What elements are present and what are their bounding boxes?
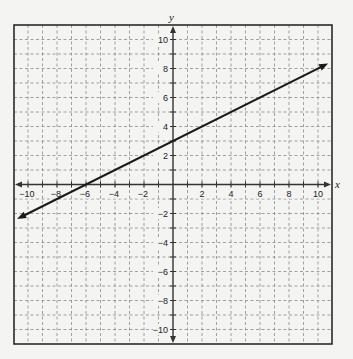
y-axis-arrow-up-icon — [170, 26, 176, 33]
y-tick-label: 2 — [163, 151, 168, 161]
x-tick-label: 10 — [313, 189, 323, 199]
y-tick-label: −2 — [158, 209, 168, 219]
line-arrow-left-icon — [17, 212, 27, 219]
y-axis-arrow-down-icon — [170, 336, 176, 343]
y-tick-label: 4 — [163, 122, 168, 132]
y-tick-label: −10 — [153, 325, 168, 335]
x-tick-label: 8 — [286, 189, 291, 199]
x-tick-label: 4 — [228, 189, 233, 199]
x-tick-label: −6 — [80, 189, 90, 199]
y-tick-label: −8 — [158, 296, 168, 306]
y-tick-label: 10 — [158, 35, 168, 45]
x-axis-arrow-left-icon — [15, 182, 22, 188]
line-arrow-right-icon — [319, 63, 329, 70]
x-tick-label: −4 — [109, 189, 119, 199]
y-tick-label: −4 — [158, 238, 168, 248]
y-tick-label: 6 — [163, 93, 168, 103]
x-axis-arrow-right-icon — [324, 182, 331, 188]
y-tick-label: −6 — [158, 267, 168, 277]
y-tick-label: 8 — [163, 64, 168, 74]
x-tick-label: −10 — [19, 189, 34, 199]
x-tick-label: 2 — [199, 189, 204, 199]
coordinate-plane-chart: −10−8−6−4−2246810−10−8−6−4−2246810 x y — [0, 0, 353, 359]
x-axis-label: x — [334, 178, 340, 190]
y-axis-label: y — [168, 11, 174, 23]
x-tick-label: 6 — [257, 189, 262, 199]
axes — [15, 26, 331, 343]
x-tick-label: −2 — [138, 189, 148, 199]
